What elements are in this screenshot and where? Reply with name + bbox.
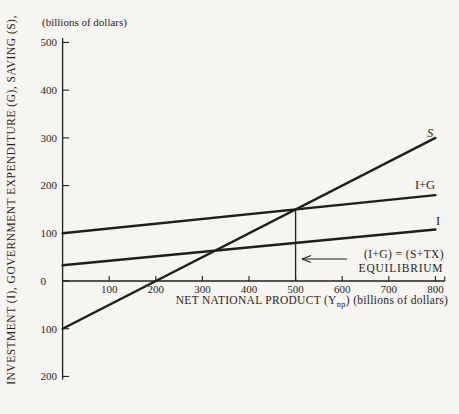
x-axis-title-subscript: np [337,299,346,309]
x-axis-title-main: NET NATIONAL PRODUCT (Y [176,294,337,307]
equilibrium-annotation-line2: EQUILIBRIUM [359,262,444,274]
y-tick-label: 500 [41,36,58,48]
x-axis-title: NET NATIONAL PRODUCT (Ynp) (billions of … [176,294,449,309]
x-tick-label: 100 [101,283,118,295]
series-label-investment: I [436,214,440,228]
y-tick-label: 200 [41,179,58,191]
y-tick-label: 200 [41,370,58,382]
y-tick-label: 100 [41,227,58,239]
series-line-investment-plus-government [63,195,436,233]
y-axis-title: INVESTMENT (I), GOVERNMENT EXPENDITURE (… [5,15,18,385]
y-tick-label: 0 [41,275,47,287]
y-axis-unit-label: (billions of dollars) [42,16,127,29]
x-axis-title-tail: ) (billions of dollars) [346,294,448,307]
y-tick-label: 100 [41,323,58,335]
y-tick-label: 300 [41,132,58,144]
economics-equilibrium-chart: 1002003004005006007008005004003002001000… [0,0,459,414]
series-label-investment-plus-government: I+G [415,178,435,192]
figure-page: 1002003004005006007008005004003002001000… [0,0,459,414]
chart-generated-layer: 1002003004005006007008005004003002001000… [41,36,445,382]
series-label-saving: S [427,126,434,140]
equilibrium-annotation-line1: (I+G) = (S+TX) [364,248,444,261]
y-tick-label: 400 [41,84,58,96]
